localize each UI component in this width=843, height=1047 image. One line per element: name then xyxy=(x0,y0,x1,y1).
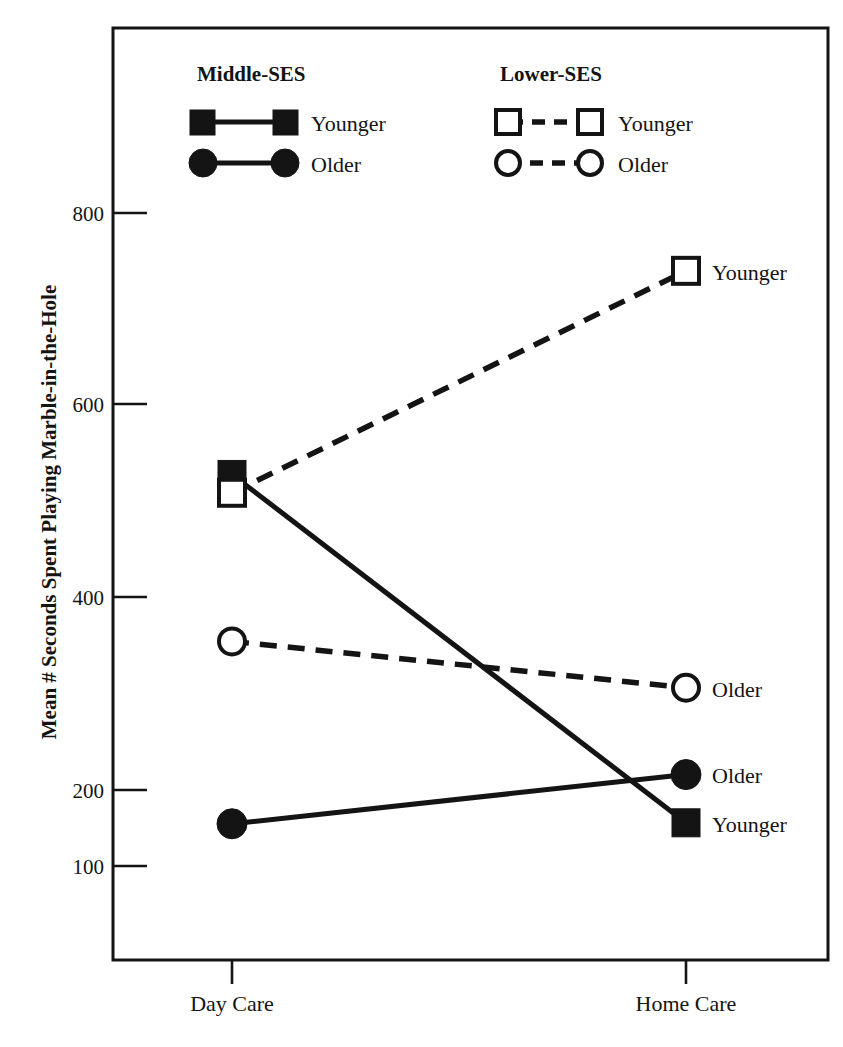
series-line-solid xyxy=(232,775,686,824)
open-square-icon xyxy=(496,110,520,134)
y-tick-label-100: 100 xyxy=(73,855,105,879)
legend-label-lower-older: Older xyxy=(618,152,669,177)
point-label-middle-older: Older xyxy=(712,763,763,788)
legend-heading-lower-ses: Lower-SES xyxy=(500,62,602,86)
point-labels: Younger Older Older Younger xyxy=(712,260,787,837)
legend: Middle-SES Younger Older Lower-SES xyxy=(189,62,693,177)
legend-group-middle-ses: Middle-SES Younger Older xyxy=(189,62,386,177)
y-axis-title: Mean # Seconds Spent Playing Marble-in-t… xyxy=(37,285,61,739)
legend-label-lower-younger: Younger xyxy=(618,111,693,136)
y-tick-label-400: 400 xyxy=(73,586,105,610)
series-lower-ses-younger xyxy=(219,258,699,506)
y-tick-label-200: 200 xyxy=(73,779,105,803)
legend-label-middle-older: Older xyxy=(311,152,362,177)
open-circle-icon xyxy=(673,675,699,701)
x-axis: Day Care Home Care xyxy=(190,960,736,1016)
filled-square-icon xyxy=(273,110,298,135)
x-tick-label-home-care: Home Care xyxy=(636,991,737,1016)
open-circle-icon xyxy=(496,151,520,175)
legend-label-middle-younger: Younger xyxy=(311,111,386,136)
legend-entry-middle-younger: Younger xyxy=(190,110,386,136)
y-axis: 800 600 400 200 100 xyxy=(73,202,148,879)
y-tick-label-600: 600 xyxy=(73,393,105,417)
filled-circle-icon xyxy=(271,149,299,177)
filled-square-icon xyxy=(672,809,700,837)
legend-group-lower-ses: Lower-SES Younger Older xyxy=(496,62,693,177)
chart-figure: 800 600 400 200 100 Mean # Seconds Spent… xyxy=(0,0,843,1047)
open-square-icon xyxy=(673,258,699,284)
legend-entry-lower-younger: Younger xyxy=(496,110,693,136)
point-label-lower-older: Older xyxy=(712,677,763,702)
x-tick-label-day-care: Day Care xyxy=(190,991,274,1016)
series-layer xyxy=(217,258,701,839)
legend-entry-middle-older: Older xyxy=(189,149,362,177)
open-circle-icon xyxy=(578,151,602,175)
series-middle-ses-older xyxy=(217,760,701,839)
filled-circle-icon xyxy=(217,809,247,839)
line-chart-svg: 800 600 400 200 100 Mean # Seconds Spent… xyxy=(0,0,843,1047)
legend-heading-middle-ses: Middle-SES xyxy=(197,62,306,86)
series-line-dashed xyxy=(232,271,686,493)
open-square-icon xyxy=(219,480,245,506)
filled-circle-icon xyxy=(189,149,217,177)
open-circle-icon xyxy=(219,628,245,654)
y-tick-label-800: 800 xyxy=(73,202,105,226)
filled-circle-icon xyxy=(671,760,701,790)
legend-entry-lower-older: Older xyxy=(496,151,669,177)
series-lower-ses-older xyxy=(219,628,699,700)
filled-square-icon xyxy=(190,110,215,135)
point-label-middle-younger: Younger xyxy=(712,812,787,837)
open-square-icon xyxy=(578,110,602,134)
point-label-lower-younger: Younger xyxy=(712,260,787,285)
